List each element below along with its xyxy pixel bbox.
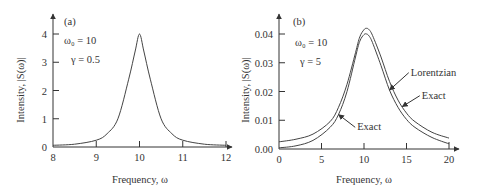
panel-b-gamma-label: γ = 5: [299, 56, 321, 67]
x-tick-label: 10: [359, 154, 370, 165]
x-tick-label: 5: [319, 154, 324, 165]
x-tick-label: 15: [401, 154, 412, 165]
x-tick-label: 20: [444, 154, 455, 165]
annotation-arrow: [402, 96, 420, 107]
y-tick-label: 2: [42, 86, 47, 97]
x-tick-label: 9: [94, 152, 99, 163]
annotation-label: Exact: [357, 121, 381, 132]
panel-a-gamma-label: γ = 0.5: [70, 54, 100, 65]
annotation-arrow: [339, 115, 356, 128]
figure: 89101112 01234 (a) ω₀ = 10 γ = 0.5 Frequ…: [0, 0, 480, 193]
y-tick-label: 0.02: [255, 87, 273, 98]
x-tick-label: 11: [178, 152, 188, 163]
x-tick-label: 10: [134, 152, 145, 163]
y-tick-label: 0.00: [255, 144, 273, 155]
panel-b: 05101520 0.000.010.020.030.04 Lorentzian…: [240, 14, 459, 185]
panel-b-omega0-label: ω₀ = 10: [295, 37, 327, 48]
y-tick-label: 0.03: [255, 58, 273, 69]
x-tick-label: 0: [276, 154, 281, 165]
panel-a-intensity-curve: [53, 34, 226, 145]
x-tick-label: 8: [50, 152, 55, 163]
panel-a-label: (a): [64, 16, 76, 28]
y-tick-label: 0.04: [255, 29, 274, 40]
panel-a-omega0-label: ω₀ = 10: [64, 35, 96, 46]
annotation-label: Lorentzian: [411, 67, 457, 78]
y-tick-label: 0: [42, 142, 47, 153]
panel-a: 89101112 01234 (a) ω₀ = 10 γ = 0.5 Frequ…: [15, 14, 232, 185]
panel-b-y-axis-title: Intensity, |S(ω)|: [240, 57, 252, 122]
panel-b-label: (b): [293, 16, 306, 28]
annotation-arrow: [390, 73, 409, 90]
x-tick-label: 12: [221, 152, 232, 163]
panel-a-x-axis-title: Frequency, ω: [112, 174, 168, 185]
y-tick-label: 3: [42, 57, 47, 68]
y-tick-label: 1: [42, 114, 47, 125]
y-tick-label: 4: [42, 29, 48, 40]
y-tick-label: 0.01: [255, 115, 273, 126]
panel-a-y-axis-title: Intensity, |S(ω)|: [15, 57, 27, 122]
panel-b-x-axis-title: Frequency, ω: [336, 174, 392, 185]
annotation-label: Exact: [422, 90, 446, 101]
